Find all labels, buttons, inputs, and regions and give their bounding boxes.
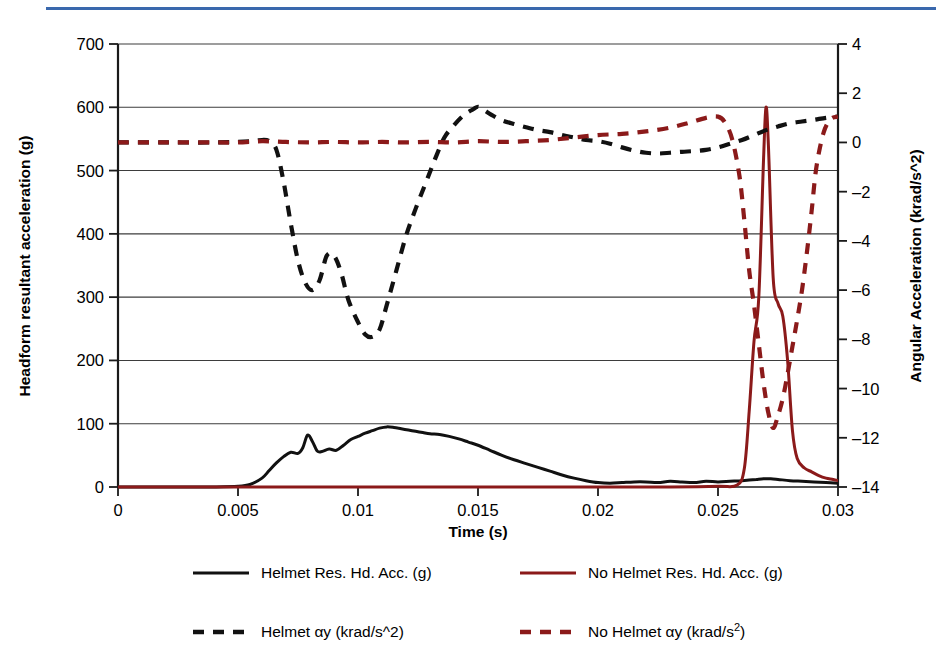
left-tick-label: 200 xyxy=(76,351,104,369)
legend-label: No Helmet αy (krad/s2) xyxy=(588,621,745,640)
series-line-4 xyxy=(118,116,838,428)
acceleration-time-chart: 0100200300400500600700 –14–12–10–8–6–4–2… xyxy=(0,0,948,672)
right-tick-label: 0 xyxy=(852,133,861,151)
x-tick-label: 0.005 xyxy=(217,501,258,519)
x-tick-label: 0 xyxy=(113,501,122,519)
x-axis-tick-labels: 00.0050.010.0150.020.0250.03 xyxy=(113,501,854,519)
legend-item[interactable]: Helmet Res. Hd. Acc. (g) xyxy=(193,564,432,581)
left-tick-label: 500 xyxy=(76,162,104,180)
right-tick-label: 4 xyxy=(852,35,861,53)
right-tick-label: 2 xyxy=(852,84,861,102)
legend-item[interactable]: No Helmet Res. Hd. Acc. (g) xyxy=(520,564,783,581)
right-tick-label: –12 xyxy=(852,429,880,447)
right-tick-label: –8 xyxy=(852,330,870,348)
x-tick-label: 0.03 xyxy=(822,501,854,519)
figure-container: 0100200300400500600700 –14–12–10–8–6–4–2… xyxy=(0,0,948,672)
left-tick-label: 400 xyxy=(76,225,104,243)
left-axis-ticks xyxy=(109,44,118,487)
x-tick-label: 0.015 xyxy=(457,501,498,519)
chart-plot-wrapper: 0100200300400500600700 –14–12–10–8–6–4–2… xyxy=(0,0,948,672)
left-axis-tick-labels: 0100200300400500600700 xyxy=(76,35,104,496)
right-axis-ticks xyxy=(838,44,847,487)
x-axis-title: Time (s) xyxy=(448,523,507,540)
right-tick-label: –2 xyxy=(852,183,870,201)
right-tick-label: –14 xyxy=(852,478,880,496)
right-axis-title: Angular Acceleration (krad/s^2) xyxy=(907,149,924,382)
left-tick-label: 100 xyxy=(76,415,104,433)
gridlines xyxy=(118,44,838,424)
x-tick-label: 0.01 xyxy=(342,501,374,519)
series-line-1 xyxy=(118,427,838,487)
left-tick-label: 600 xyxy=(76,98,104,116)
legend-label: No Helmet Res. Hd. Acc. (g) xyxy=(588,564,783,581)
legend-item[interactable]: Helmet αy (krad/s^2) xyxy=(193,623,404,640)
x-tick-label: 0.025 xyxy=(697,501,738,519)
legend-label: Helmet αy (krad/s^2) xyxy=(261,623,404,640)
right-tick-label: –10 xyxy=(852,380,880,398)
left-axis-title: Headform resultant acceleration (g) xyxy=(16,136,33,397)
right-tick-label: –4 xyxy=(852,232,870,250)
left-tick-label: 700 xyxy=(76,35,104,53)
left-tick-label: 0 xyxy=(95,478,104,496)
legend-label: Helmet Res. Hd. Acc. (g) xyxy=(261,564,432,581)
legend-item[interactable]: No Helmet αy (krad/s2) xyxy=(520,621,745,640)
chart-legend: Helmet Res. Hd. Acc. (g)No Helmet Res. H… xyxy=(193,564,783,640)
left-tick-label: 300 xyxy=(76,288,104,306)
right-tick-label: –6 xyxy=(852,281,870,299)
x-tick-label: 0.02 xyxy=(582,501,614,519)
right-axis-tick-labels: –14–12–10–8–6–4–2024 xyxy=(852,35,880,496)
